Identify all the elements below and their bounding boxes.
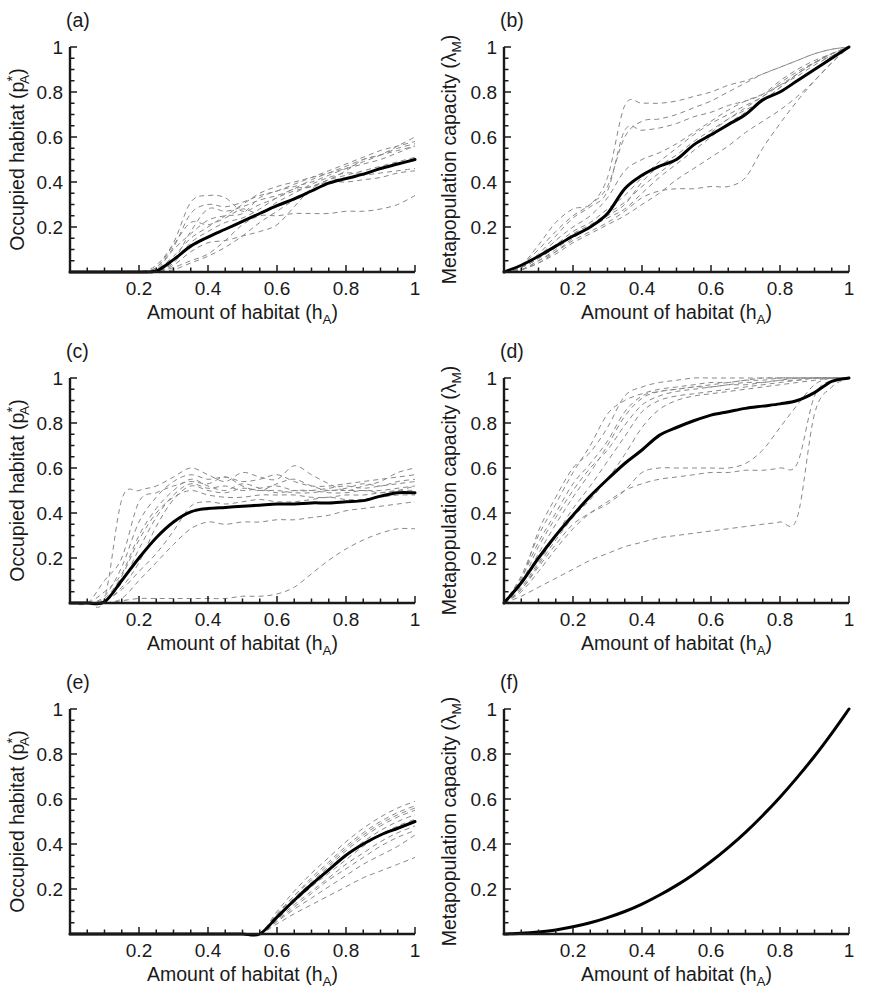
y-tick-label: 1: [486, 368, 497, 389]
x-tick-label: 0.4: [629, 609, 656, 630]
replicate-line: [70, 475, 415, 604]
replicate-line: [70, 835, 415, 935]
x-axis-title: Amount of habitat (hA): [147, 632, 338, 658]
y-tick-label: 0.4: [471, 503, 498, 524]
panel-f: (f)0.20.40.60.810.20.40.60.81Amount of h…: [434, 662, 869, 995]
panel-letter-label: (d): [500, 340, 524, 362]
figure-six-panel: (a)0.20.40.60.810.20.40.60.81Amount of h…: [0, 0, 869, 995]
replicate-line: [504, 378, 849, 603]
replicate-line: [504, 378, 849, 603]
x-tick-label: 1: [410, 609, 421, 630]
x-tick-label: 1: [844, 278, 855, 299]
x-tick-label: 0.6: [264, 278, 290, 299]
y-tick-label: 0.2: [37, 879, 63, 900]
y-tick-label: 0.4: [37, 172, 64, 193]
x-tick-label: 0.6: [264, 940, 290, 961]
x-axis-title: Amount of habitat (hA): [581, 963, 772, 989]
y-tick-label: 0.6: [37, 127, 63, 148]
replicate-line: [70, 142, 415, 273]
replicate-line: [504, 378, 849, 603]
y-tick-label: 0.6: [37, 458, 63, 479]
x-tick-label: 0.2: [126, 609, 152, 630]
replicate-line: [70, 801, 415, 935]
x-tick-label: 0.4: [629, 940, 656, 961]
replicate-line: [504, 378, 849, 603]
x-tick-label: 1: [410, 278, 421, 299]
y-tick-label: 1: [52, 368, 63, 389]
mean-line: [70, 822, 415, 936]
replicate-line: [504, 378, 849, 603]
y-tick-label: 1: [486, 37, 497, 58]
replicate-line: [70, 479, 415, 604]
mean-line: [504, 378, 849, 603]
y-tick-label: 0.2: [471, 548, 497, 569]
y-axis-title: Occupied habitat (p*A): [4, 730, 32, 912]
panel-letter-label: (f): [500, 671, 518, 693]
panel-letter-label: (a): [66, 9, 90, 31]
panel-e: (e)0.20.40.60.810.20.40.60.81Amount of h…: [0, 662, 434, 995]
x-tick-label: 0.4: [195, 940, 222, 961]
y-tick-label: 1: [52, 699, 63, 720]
x-axis-title: Amount of habitat (hA): [147, 301, 338, 327]
replicate-line: [504, 378, 849, 603]
x-tick-label: 0.6: [698, 278, 724, 299]
panel-letter-label: (b): [500, 9, 524, 31]
x-tick-label: 0.4: [195, 609, 222, 630]
replicate-line: [504, 378, 849, 603]
panel-letter-label: (e): [66, 671, 90, 693]
axis-spine: [504, 709, 849, 934]
replicate-line: [70, 528, 415, 603]
x-tick-label: 0.8: [767, 278, 793, 299]
y-tick-label: 1: [486, 699, 497, 720]
axis-spine: [70, 709, 415, 934]
replicate-line: [70, 486, 415, 603]
panel-d: (d)0.20.40.60.810.20.40.60.81Amount of h…: [434, 331, 869, 662]
replicate-line: [70, 806, 415, 936]
y-tick-label: 0.8: [37, 82, 63, 103]
y-axis-title: Metapopulation capacity (λM): [438, 366, 464, 616]
x-axis-title: Amount of habitat (hA): [147, 963, 338, 989]
replicate-line: [504, 378, 849, 603]
x-tick-label: 0.2: [560, 278, 586, 299]
x-tick-label: 0.8: [333, 609, 359, 630]
y-tick-label: 0.6: [471, 127, 497, 148]
y-tick-label: 0.4: [471, 172, 498, 193]
axes: [504, 378, 849, 603]
replicate-line: [70, 196, 415, 273]
x-axis-title: Amount of habitat (hA): [581, 632, 772, 658]
replicate-line: [70, 160, 415, 273]
y-tick-label: 0.8: [37, 744, 63, 765]
x-tick-label: 0.6: [698, 940, 724, 961]
panel-a: (a)0.20.40.60.810.20.40.60.81Amount of h…: [0, 0, 434, 331]
x-tick-label: 0.6: [698, 609, 724, 630]
x-tick-label: 1: [844, 940, 855, 961]
x-tick-label: 1: [844, 609, 855, 630]
y-tick-label: 0.2: [37, 548, 63, 569]
replicate-line: [70, 858, 415, 935]
mean-line: [504, 709, 849, 934]
replicate-series-group: [70, 801, 415, 935]
x-tick-label: 0.2: [126, 940, 152, 961]
y-tick-label: 0.8: [37, 413, 63, 434]
y-tick-label: 0.4: [37, 503, 64, 524]
replicate-line: [70, 477, 415, 605]
replicate-line: [504, 378, 849, 603]
y-tick-label: 1: [52, 37, 63, 58]
y-axis-title: Metapopulation capacity (λM): [438, 697, 464, 947]
mean-line: [504, 47, 849, 272]
axes: [504, 709, 849, 934]
x-tick-label: 0.6: [264, 609, 290, 630]
x-tick-label: 0.2: [560, 609, 586, 630]
x-tick-label: 0.8: [333, 278, 359, 299]
replicate-line: [70, 810, 415, 935]
y-axis-title: Occupied habitat (p*A): [4, 399, 32, 581]
replicate-line: [504, 378, 849, 603]
panel-c: (c)0.20.40.60.810.20.40.60.81Amount of h…: [0, 331, 434, 662]
axis-spine: [504, 378, 849, 603]
replicate-series-group: [70, 137, 415, 273]
x-axis-title: Amount of habitat (hA): [581, 301, 772, 327]
y-tick-label: 0.6: [471, 789, 497, 810]
panel-letter-label: (c): [66, 340, 89, 362]
y-tick-label: 0.2: [471, 217, 497, 238]
replicate-line: [70, 502, 415, 604]
